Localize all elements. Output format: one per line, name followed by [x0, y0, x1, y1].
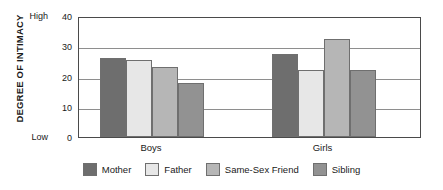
legend: MotherFatherSame-Sex FriendSibling — [0, 163, 443, 176]
y-tick-20: 20 — [54, 73, 72, 83]
legend-swatch-same-sex-friend — [206, 163, 220, 176]
bars-layer — [79, 18, 420, 137]
y-axis-title: DEGREE OF INTIMACY — [14, 6, 25, 132]
legend-swatch-father — [145, 163, 159, 176]
y-axis-high-label: High — [29, 11, 48, 21]
x-label-girls: Girls — [283, 142, 363, 153]
legend-item-sibling[interactable]: Sibling — [313, 163, 361, 176]
bar-girls-same-sex-friend — [324, 39, 350, 137]
y-tick-0: 0 — [54, 133, 72, 143]
y-tick-30: 30 — [54, 42, 72, 52]
bar-girls-sibling — [350, 70, 376, 137]
bar-boys-father — [126, 60, 152, 137]
bar-boys-mother — [100, 58, 126, 137]
bar-boys-sibling — [178, 83, 204, 137]
legend-label-mother: Mother — [102, 164, 132, 175]
y-tick-10: 10 — [54, 103, 72, 113]
legend-swatch-sibling — [313, 163, 327, 176]
legend-item-mother[interactable]: Mother — [83, 163, 132, 176]
bar-girls-father — [298, 70, 324, 137]
legend-swatch-mother — [83, 163, 97, 176]
legend-label-sibling: Sibling — [332, 164, 361, 175]
bar-chart: DEGREE OF INTIMACY High Low 010203040 Bo… — [0, 0, 443, 190]
legend-label-father: Father — [164, 164, 191, 175]
bar-girls-mother — [272, 54, 298, 137]
legend-item-father[interactable]: Father — [145, 163, 191, 176]
plot-area — [78, 17, 421, 138]
x-label-boys: Boys — [111, 142, 191, 153]
bar-boys-same-sex-friend — [152, 67, 178, 137]
legend-label-same-sex-friend: Same-Sex Friend — [225, 164, 299, 175]
y-axis-low-label: Low — [31, 132, 48, 142]
legend-item-same-sex-friend[interactable]: Same-Sex Friend — [206, 163, 299, 176]
y-tick-40: 40 — [54, 12, 72, 22]
